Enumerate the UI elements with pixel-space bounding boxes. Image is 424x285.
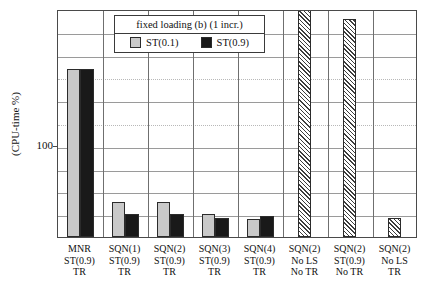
bar-sqn1-st09 — [125, 214, 139, 237]
x-label-line-2: No LS — [282, 255, 327, 267]
legend-item-st09: ST(0.9) — [201, 37, 249, 48]
x-label-line-3: No TR — [282, 266, 327, 278]
bar-sqn2-st09 — [170, 214, 184, 238]
x-label-line-1: SQN(2) — [327, 243, 372, 255]
y-axis-tick-label-100: 100 — [0, 140, 53, 151]
group-separator-6 — [328, 11, 329, 237]
x-label-line-3: TR — [102, 266, 147, 278]
x-label-line-2: ST(0.9) — [102, 255, 147, 267]
bar-sqn4-st09 — [260, 216, 274, 237]
bar-mnr-st09 — [80, 69, 94, 237]
x-label-group-5: SQN(2) No LS No TR — [282, 243, 327, 278]
legend-item-st01: ST(0.1) — [130, 37, 178, 48]
bar-sqn3-st09 — [215, 218, 229, 237]
x-label-line-2: ST(0.9) — [327, 255, 372, 267]
x-label-line-1: SQN(4) — [237, 243, 282, 255]
x-label-group-4: SQN(4) ST(0.9) TR — [237, 243, 282, 278]
x-axis-labels: MNR ST(0.9) TR SQN(1) ST(0.9) TR SQN(2) … — [57, 243, 417, 285]
x-label-group-7: SQN(2) No LS TR — [372, 243, 417, 278]
gridline-500 — [58, 125, 416, 126]
x-label-line-2: ST(0.9) — [147, 255, 192, 267]
legend-title: fixed loading (b) (1 incr.) — [115, 16, 264, 34]
legend-swatch-light-icon — [130, 37, 141, 48]
x-label-group-6: SQN(2) ST(0.9) No TR — [327, 243, 372, 278]
bar-sqn3-st01 — [202, 214, 215, 237]
x-label-group-3: SQN(3) ST(0.9) TR — [192, 243, 237, 278]
x-label-line-1: SQN(2) — [147, 243, 192, 255]
legend: fixed loading (b) (1 incr.) ST(0.1) ST(0… — [114, 15, 265, 53]
gridline-200 — [58, 193, 416, 194]
legend-label-st09: ST(0.9) — [217, 37, 249, 48]
x-label-line-1: SQN(1) — [102, 243, 147, 255]
group-separator-7 — [373, 11, 374, 237]
legend-swatch-dark-icon — [201, 37, 212, 48]
x-label-line-2: ST(0.9) — [237, 255, 282, 267]
x-label-group-1: SQN(1) ST(0.9) TR — [102, 243, 147, 278]
bar-chart: (CPU-time %) 100 >700 — [0, 0, 424, 285]
x-label-line-1: SQN(3) — [192, 243, 237, 255]
x-label-line-1: SQN(2) — [282, 243, 327, 255]
x-label-group-2: SQN(2) ST(0.9) TR — [147, 243, 192, 278]
gridline-300 — [58, 171, 416, 172]
x-label-line-3: No TR — [327, 266, 372, 278]
bar-sqn1-st01 — [112, 202, 125, 237]
x-label-line-1: SQN(2) — [372, 243, 417, 255]
bar-sqn4-st01 — [247, 219, 260, 237]
x-label-line-3: TR — [57, 266, 102, 278]
bar-mnr-st01 — [67, 69, 80, 237]
x-label-line-3: TR — [192, 266, 237, 278]
gridline-800 — [58, 57, 416, 58]
bar-sqn2-nols-notr — [298, 10, 311, 237]
group-separator-5 — [283, 11, 284, 237]
group-separator-1 — [103, 11, 104, 237]
gridline-600 — [58, 102, 416, 103]
x-label-line-3: TR — [147, 266, 192, 278]
legend-label-st01: ST(0.1) — [146, 37, 178, 48]
x-label-line-3: TR — [237, 266, 282, 278]
x-label-line-1: MNR — [57, 243, 102, 255]
gridline-400 — [58, 148, 416, 149]
bar-sqn2-nols-tr — [388, 218, 401, 237]
bar-sqn2-st09-notr — [343, 19, 356, 237]
gridline-700 — [58, 79, 416, 80]
x-label-line-2: No LS — [372, 255, 417, 267]
bar-sqn2-st01 — [157, 202, 170, 237]
x-label-line-3: TR — [372, 266, 417, 278]
x-label-group-0: MNR ST(0.9) TR — [57, 243, 102, 278]
y-axis-title: (CPU-time %) — [9, 64, 21, 184]
x-label-line-2: ST(0.9) — [57, 255, 102, 267]
x-label-line-2: ST(0.9) — [192, 255, 237, 267]
